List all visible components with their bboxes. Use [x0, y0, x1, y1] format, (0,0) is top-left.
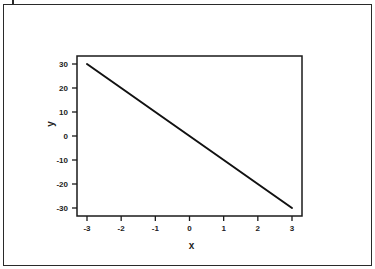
x-tick-label: 2	[256, 224, 261, 233]
x-axis-title: x	[189, 240, 195, 251]
y-tick-label: -10	[56, 156, 68, 165]
y-tick-label: 10	[59, 108, 68, 117]
x-axis: -3-2-10123	[83, 216, 294, 233]
x-tick-label: 3	[290, 224, 295, 233]
y-axis-title: y	[45, 121, 56, 127]
line-chart: -3-2-10123 3020100-10-20-30 x y	[0, 0, 375, 269]
y-axis: 3020100-10-20-30	[56, 60, 77, 213]
y-tick-label: 30	[59, 60, 68, 69]
x-tick-label: 1	[221, 224, 226, 233]
y-tick-label: 20	[59, 84, 68, 93]
x-tick-label: -1	[152, 224, 160, 233]
y-tick-label: -30	[56, 204, 68, 213]
x-tick-label: -3	[83, 224, 91, 233]
y-tick-label: -20	[56, 180, 68, 189]
x-tick-label: -2	[118, 224, 126, 233]
x-tick-label: 0	[187, 224, 192, 233]
y-tick-label: 0	[64, 132, 69, 141]
